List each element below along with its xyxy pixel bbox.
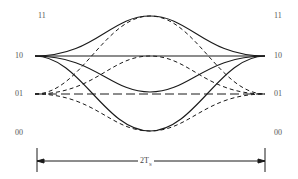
span-right-arrowhead [258, 159, 265, 163]
span-label-sub: S [149, 162, 152, 167]
dashed-01-to-10-curve [35, 56, 265, 94]
span-label: 2TS [138, 157, 154, 167]
dashed-01-to-11-curve [35, 16, 265, 94]
span-left-arrowhead [37, 159, 44, 163]
transition-curves [0, 0, 298, 179]
solid-10-to-01-curve [35, 56, 265, 92]
span-label-main: 2T [140, 156, 149, 165]
dashed-01-to-00-curve [35, 94, 265, 131]
solid-10-to-11-curve [35, 16, 265, 56]
